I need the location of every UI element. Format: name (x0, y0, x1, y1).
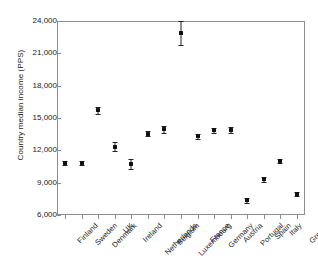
error-bar-cap-bottom (145, 136, 150, 137)
data-point (162, 127, 166, 131)
x-tick-mark (181, 215, 182, 219)
error-bar-cap-top (179, 21, 184, 22)
x-tick-mark (214, 215, 215, 219)
y-tick-mark (57, 215, 61, 216)
y-tick-mark (57, 183, 61, 184)
data-point (113, 145, 117, 149)
x-tick-mark (148, 215, 149, 219)
x-tick-label: Greece (307, 221, 318, 245)
y-tick-mark (57, 86, 61, 87)
data-point (146, 132, 150, 136)
error-bar-cap-bottom (245, 203, 250, 204)
error-bar-cap-bottom (261, 182, 266, 183)
error-bar-cap-bottom (278, 163, 283, 164)
error-bar-cap-bottom (63, 165, 68, 166)
error-bar-cap-bottom (162, 133, 167, 134)
y-tick-mark (57, 150, 61, 151)
y-tick-label: 15,000 (5, 114, 57, 122)
error-bar-cap-bottom (112, 151, 117, 152)
data-point (245, 198, 249, 202)
data-point (262, 177, 266, 181)
x-tick-mark (297, 215, 298, 219)
x-tick-mark (164, 215, 165, 219)
x-tick-label-text: Ireland (141, 221, 164, 244)
plot-area (57, 21, 305, 215)
x-tick-mark (131, 215, 132, 219)
y-tick-label: 9,000 (5, 179, 57, 187)
scatter-chart: Country median income (PPS) 6,0009,00012… (0, 0, 318, 262)
x-tick-mark (280, 215, 281, 219)
data-point (129, 162, 133, 166)
y-tick-label: 12,000 (5, 146, 57, 154)
x-tick-mark (115, 215, 116, 219)
error-bar-cap-bottom (129, 169, 134, 170)
data-point (63, 161, 67, 165)
x-tick-mark (247, 215, 248, 219)
error-bar-cap-bottom (212, 133, 217, 134)
y-tick-label: 6,000 (5, 211, 57, 219)
error-bar-cap-bottom (228, 133, 233, 134)
data-point (96, 108, 100, 112)
y-tick-label: 21,000 (5, 49, 57, 57)
y-tick-mark (57, 118, 61, 119)
error-bar-cap-top (129, 159, 134, 160)
data-point (229, 128, 233, 132)
x-tick-mark (231, 215, 232, 219)
y-tick-mark (57, 21, 61, 22)
x-tick-mark (65, 215, 66, 219)
data-point (295, 192, 299, 196)
x-tick-label-text: Greece (307, 221, 318, 245)
data-point (80, 161, 84, 165)
x-tick-label: Ireland (141, 221, 164, 244)
y-axis: 6,0009,00012,00015,00018,00021,00024,000 (0, 0, 57, 262)
y-tick-label: 18,000 (5, 82, 57, 90)
x-tick-mark (82, 215, 83, 219)
error-bar-cap-bottom (195, 139, 200, 140)
x-tick-mark (198, 215, 199, 219)
data-point (179, 31, 183, 35)
error-bar-cap-bottom (179, 45, 184, 46)
error-bar-cap-bottom (96, 114, 101, 115)
x-tick-mark (98, 215, 99, 219)
x-tick-mark (264, 215, 265, 219)
y-tick-mark (57, 53, 61, 54)
error-bar-cap-bottom (294, 196, 299, 197)
y-tick-label: 24,000 (5, 17, 57, 25)
data-point (278, 159, 282, 163)
data-point (212, 128, 216, 132)
data-point (196, 134, 200, 138)
error-bar-cap-top (112, 142, 117, 143)
